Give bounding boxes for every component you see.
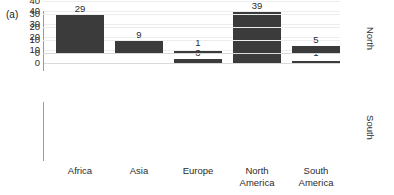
baseline-south [43, 53, 340, 54]
baseline-north [43, 63, 340, 64]
bar-value-north-north-america: 39 [233, 1, 281, 11]
panel-side-label-north: North [365, 19, 376, 59]
y-axis-south [43, 102, 44, 161]
panel-side-label-south: South [365, 108, 376, 148]
ytick-south-0: 0 [0, 48, 40, 58]
bar-north-south-america [292, 61, 340, 63]
bar-chart-figure: (a) 40 30 20 10 0 3 39 1 North 40 [0, 0, 394, 195]
bar-south-europe [174, 51, 222, 53]
bar-south-asia [115, 41, 163, 53]
gridline-south-40 [43, 1, 340, 2]
ytick-south-20: 20 [0, 22, 40, 32]
bar-south-africa [56, 15, 104, 53]
xtick-label-asia: Asia [115, 165, 163, 177]
ytick-south-10: 10 [0, 35, 40, 45]
ytick-south-30: 30 [0, 9, 40, 19]
bar-value-south-europe: 1 [174, 38, 222, 48]
xtick-label-africa: Africa [56, 165, 104, 177]
y-axis-north [43, 11, 44, 71]
bar-value-south-africa: 29 [56, 4, 104, 14]
bar-value-south-asia: 9 [115, 30, 163, 40]
xtick-label-south-america: South America [292, 165, 340, 188]
bar-value-south-south-america: 5 [292, 35, 340, 45]
bar-south-south-america [292, 46, 340, 53]
ytick-south-40: 40 [0, 0, 40, 6]
bar-north-north-america [233, 12, 281, 63]
ytick-north-0: 0 [0, 58, 40, 68]
panel-south: 40 30 20 10 0 29 9 1 5 [0, 65, 394, 125]
xtick-label-europe: Europe [174, 165, 222, 177]
xtick-label-north-america: North America [233, 165, 281, 188]
bar-north-europe [174, 59, 222, 63]
